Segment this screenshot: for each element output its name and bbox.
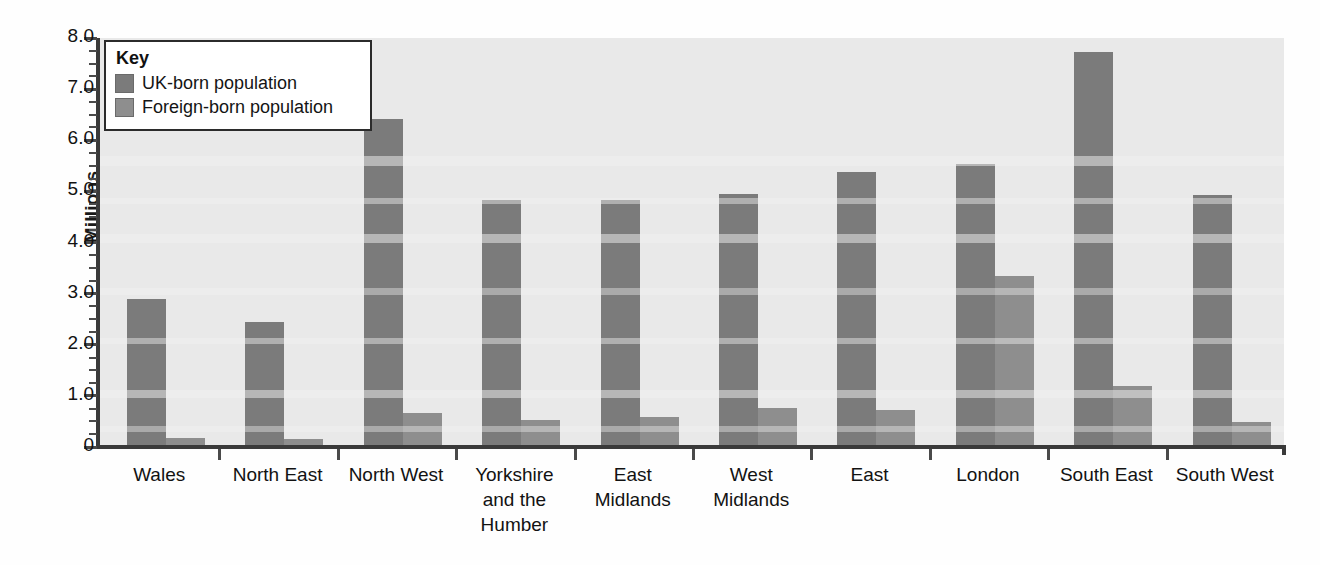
background-band	[100, 234, 1284, 243]
y-tick-label: 7.0	[42, 76, 94, 98]
x-axis-category-label: North East	[218, 462, 336, 487]
x-axis-line	[96, 445, 1286, 449]
x-axis-category-label-line: and the	[455, 487, 573, 512]
x-tick	[692, 449, 695, 460]
legend-title: Key	[116, 48, 361, 69]
x-axis-category-label: South West	[1166, 462, 1284, 487]
x-axis-category-label: Wales	[100, 462, 218, 487]
x-axis-category-label-line: East	[574, 462, 692, 487]
x-tick	[218, 449, 221, 460]
background-band	[100, 288, 1284, 295]
x-tick	[810, 449, 813, 460]
x-axis-category-label-line: North West	[337, 462, 455, 487]
y-tick-label: 8.0	[42, 25, 94, 47]
x-tick	[574, 449, 577, 460]
x-axis-category-label-line: Wales	[100, 462, 218, 487]
bar-uk-born	[956, 164, 995, 447]
legend-box: Key UK-born population Foreign-born popu…	[104, 40, 372, 131]
x-tick	[1166, 449, 1169, 460]
legend-swatch-foreign-born-icon	[115, 98, 134, 117]
background-band	[100, 390, 1284, 398]
x-axis-category-label: Yorkshireand theHumber	[455, 462, 573, 537]
legend-label-uk-born: UK-born population	[142, 73, 297, 94]
bar-uk-born	[127, 299, 166, 447]
x-axis-category-label: EastMidlands	[574, 462, 692, 512]
x-axis-right-cap	[1282, 445, 1286, 455]
x-axis-category-label: East	[810, 462, 928, 487]
background-band	[100, 156, 1284, 166]
x-axis-category-label-line: Midlands	[692, 487, 810, 512]
bar-uk-born	[837, 172, 876, 447]
x-axis-category-label: WestMidlands	[692, 462, 810, 512]
x-axis-category-label: South East	[1047, 462, 1165, 487]
y-tick-label: 1.0	[42, 383, 94, 405]
chart-root: Millions 8.07.06.05.04.03.02.01.00 Wales…	[0, 0, 1320, 565]
x-tick	[337, 449, 340, 460]
x-axis-category-label: London	[929, 462, 1047, 487]
y-tick-label: 3.0	[42, 281, 94, 303]
legend-entry-foreign-born: Foreign-born population	[115, 97, 361, 118]
x-axis-category-label-line: Midlands	[574, 487, 692, 512]
bar-foreign-born	[521, 420, 560, 447]
x-axis-category-label-line: South West	[1166, 462, 1284, 487]
x-tick	[929, 449, 932, 460]
background-band	[100, 426, 1284, 432]
x-axis-category-label-line: Yorkshire	[455, 462, 573, 487]
bar-foreign-born	[995, 276, 1034, 447]
y-tick-label: 2.0	[42, 332, 94, 354]
x-axis-category-label-line: South East	[1047, 462, 1165, 487]
y-tick-label: 4.0	[42, 230, 94, 252]
bar-uk-born	[1074, 52, 1113, 447]
x-tick	[1047, 449, 1050, 460]
background-band	[100, 198, 1284, 204]
x-axis-category-label-line: Humber	[455, 512, 573, 537]
legend-swatch-uk-born-icon	[115, 74, 134, 93]
legend-entry-uk-born: UK-born population	[115, 73, 361, 94]
x-axis-category-label-line: West	[692, 462, 810, 487]
x-axis-category-label: North West	[337, 462, 455, 487]
y-tick-label: 0	[42, 434, 94, 456]
x-axis-category-label-line: London	[929, 462, 1047, 487]
y-tick-label: 6.0	[42, 127, 94, 149]
y-axis-labels: 8.07.06.05.04.03.02.01.00	[20, 0, 94, 565]
legend-label-foreign-born: Foreign-born population	[142, 97, 333, 118]
x-tick	[455, 449, 458, 460]
y-tick-label: 5.0	[42, 178, 94, 200]
x-axis-category-label-line: North East	[218, 462, 336, 487]
bar-uk-born	[719, 194, 758, 447]
background-band	[100, 338, 1284, 344]
x-axis-category-label-line: East	[810, 462, 928, 487]
